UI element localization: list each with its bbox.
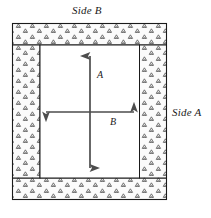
wall-top — [13, 24, 167, 46]
wall-right — [140, 45, 167, 178]
figure-screenshot: Side B Side A A B — [0, 0, 211, 218]
label-side-b: Side B — [72, 4, 102, 16]
dimension-label-b: B — [110, 116, 116, 127]
label-side-a: Side A — [172, 106, 201, 118]
wall-bottom — [13, 178, 167, 200]
dimension-label-a: A — [97, 69, 103, 80]
wall-left — [13, 45, 41, 178]
